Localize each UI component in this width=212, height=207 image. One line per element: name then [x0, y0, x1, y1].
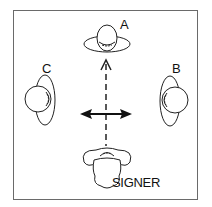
label-a: A — [120, 18, 129, 31]
gaze-arrow-vertical — [101, 60, 111, 146]
person-c-figure — [25, 75, 55, 125]
diagram-canvas — [0, 0, 212, 207]
label-b: B — [172, 62, 181, 75]
label-c: C — [42, 62, 51, 75]
person-b-figure — [160, 76, 188, 126]
label-signer: SIGNER — [112, 176, 160, 189]
